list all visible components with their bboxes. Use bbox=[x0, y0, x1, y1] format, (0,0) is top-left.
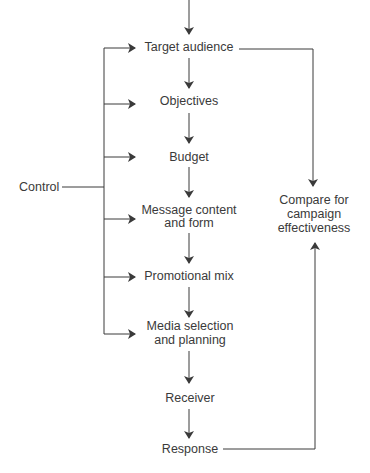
node-compare-line2: campaign bbox=[287, 207, 341, 221]
node-compare-line1: Compare for bbox=[279, 193, 348, 207]
target-to-compare-line bbox=[239, 49, 313, 186]
node-message-line1: Message content bbox=[141, 203, 236, 217]
node-objectives: Objectives bbox=[160, 94, 218, 108]
node-budget: Budget bbox=[169, 150, 209, 164]
node-response: Response bbox=[162, 442, 218, 456]
node-target-audience: Target audience bbox=[145, 40, 234, 54]
node-receiver: Receiver bbox=[165, 391, 214, 405]
node-compare-line3: effectiveness bbox=[278, 221, 351, 235]
node-media-line1: Media selection bbox=[147, 319, 234, 333]
response-to-compare-line bbox=[223, 243, 315, 449]
node-promotional-mix: Promotional mix bbox=[144, 269, 234, 283]
node-media-line2: and planning bbox=[154, 333, 226, 347]
node-control: Control bbox=[19, 180, 59, 194]
node-message-line2: and form bbox=[164, 216, 213, 230]
